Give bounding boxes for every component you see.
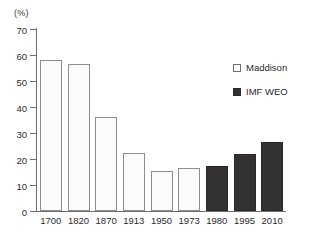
x-tick-label-1973: 1973: [175, 215, 203, 226]
legend-swatch-imf-weo-icon: [233, 88, 241, 96]
y-tick-70: 70: [30, 29, 36, 30]
bar-chart: (%) 010203040506070 17001820187019131950…: [0, 0, 316, 241]
chart-legend: Maddison IMF WEO: [233, 62, 316, 110]
bar-1870: [95, 117, 117, 211]
y-tick-label-30: 30: [16, 128, 27, 139]
y-tick-40: 40: [30, 107, 36, 108]
y-tick-label-50: 50: [16, 76, 27, 87]
x-tick-label-1700: 1700: [37, 215, 65, 226]
y-tick-label-40: 40: [16, 102, 27, 113]
y-axis-unit-label: (%): [14, 8, 29, 18]
y-tick-label-0: 0: [22, 206, 27, 217]
y-tick-0: 0: [30, 211, 36, 212]
bar-1973: [178, 168, 200, 211]
x-tick-label-1995: 1995: [231, 215, 259, 226]
x-axis-labels: 170018201870191319501973198019952010: [37, 215, 286, 233]
x-axis-line: [36, 211, 286, 212]
bar-1950: [151, 171, 173, 211]
y-tick-label-10: 10: [16, 180, 27, 191]
y-tick-label-60: 60: [16, 50, 27, 61]
y-tick-20: 20: [30, 159, 36, 160]
bar-2010: [261, 142, 283, 211]
y-tick-label-20: 20: [16, 154, 27, 165]
x-tick-label-1820: 1820: [65, 215, 93, 226]
bars-layer: [37, 29, 286, 211]
legend-entry-maddison: Maddison: [233, 62, 316, 73]
x-tick-label-1950: 1950: [148, 215, 176, 226]
bar-1700: [40, 60, 62, 211]
bar-1820: [68, 64, 90, 211]
bar-1913: [123, 153, 145, 212]
legend-entry-imf-weo: IMF WEO: [233, 86, 316, 97]
legend-swatch-maddison-icon: [233, 64, 241, 72]
legend-label-maddison: Maddison: [246, 62, 287, 73]
x-tick-label-1980: 1980: [203, 215, 231, 226]
bar-1995: [234, 154, 256, 211]
x-tick-label-1870: 1870: [92, 215, 120, 226]
y-tick-10: 10: [30, 185, 36, 186]
y-tick-label-70: 70: [16, 24, 27, 35]
bar-1980: [206, 166, 228, 212]
y-tick-30: 30: [30, 133, 36, 134]
legend-label-imf-weo: IMF WEO: [246, 86, 288, 97]
x-tick-label-1913: 1913: [120, 215, 148, 226]
x-tick-label-2010: 2010: [258, 215, 286, 226]
y-tick-50: 50: [30, 81, 36, 82]
y-tick-60: 60: [30, 55, 36, 56]
